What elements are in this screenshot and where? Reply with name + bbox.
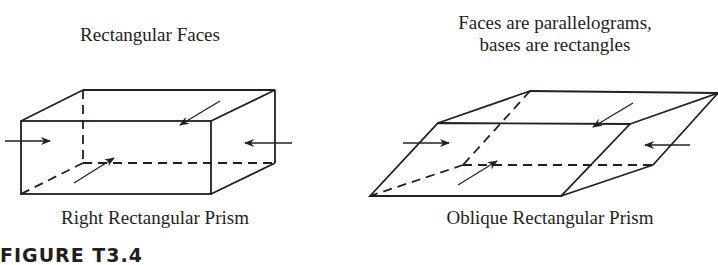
face-arrows [5, 101, 292, 183]
right-prism-caption: Right Rectangular Prism [20, 207, 290, 229]
figure-label: FIGURE T3.4 [0, 244, 143, 265]
oblique-prism-caption: Oblique Rectangular Prism [410, 207, 690, 229]
right-rectangular-prism [5, 90, 292, 194]
face-arrows [403, 103, 690, 185]
hidden-edges [21, 90, 275, 194]
oblique-rectangular-prism [370, 91, 718, 196]
arrow-icon [74, 158, 114, 183]
